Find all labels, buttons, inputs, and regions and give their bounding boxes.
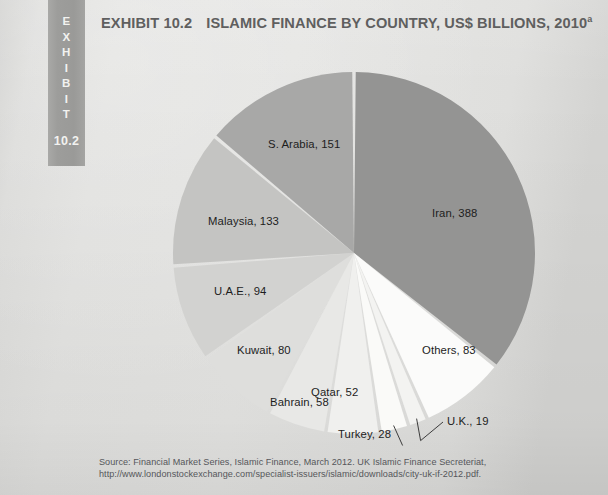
pie-label-bahrain: Bahrain, 58 bbox=[270, 396, 329, 408]
leader-line-u-k bbox=[417, 419, 443, 441]
pie-chart-svg bbox=[0, 0, 608, 452]
pie-label-s-arabia: S. Arabia, 151 bbox=[268, 138, 340, 150]
pie-label-others: Others, 83 bbox=[422, 344, 476, 356]
pie-label-kuwait: Kuwait, 80 bbox=[237, 344, 291, 356]
pie-label-u-k: U.K., 19 bbox=[447, 415, 489, 427]
pie-chart: Iran, 388Others, 83U.K., 19Turkey, 28Qat… bbox=[0, 0, 608, 452]
pie-slices bbox=[173, 72, 535, 434]
source-note: Source: Financial Market Series, Islamic… bbox=[99, 456, 599, 481]
pie-label-u-a-e: U.A.E., 94 bbox=[214, 285, 267, 297]
pie-label-turkey: Turkey, 28 bbox=[338, 428, 391, 440]
pie-label-malaysia: Malaysia, 133 bbox=[208, 215, 279, 227]
pie-label-iran: Iran, 388 bbox=[432, 207, 478, 219]
